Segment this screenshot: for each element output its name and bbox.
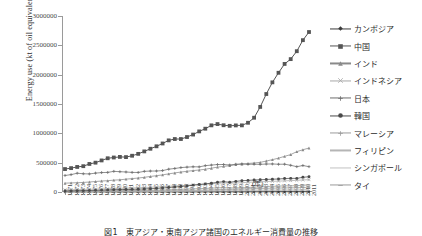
x-axis-unit: (年) <box>252 178 263 188</box>
legend-label: インドネシア <box>354 75 402 86</box>
data-point <box>106 156 110 160</box>
data-point <box>136 152 140 156</box>
legend-marker-icon <box>330 145 351 155</box>
data-point <box>289 57 293 61</box>
data-point <box>179 137 183 141</box>
data-point <box>143 170 146 173</box>
data-point <box>289 177 292 180</box>
data-point <box>204 182 207 185</box>
data-point <box>131 188 134 191</box>
data-point <box>216 122 220 126</box>
legend-label: 日本 <box>354 93 370 104</box>
legend-item-カンボジア[interactable]: カンボジア <box>330 20 422 37</box>
data-point <box>70 189 73 192</box>
data-point <box>247 179 250 182</box>
data-point <box>167 186 170 189</box>
data-point <box>69 166 73 170</box>
data-point <box>192 184 195 187</box>
data-point <box>277 163 280 166</box>
legend-item-韓国[interactable]: 韓国 <box>330 107 422 124</box>
data-point <box>161 142 165 146</box>
legend-label: フィリピン <box>354 145 394 156</box>
data-point <box>308 186 311 189</box>
data-point <box>265 187 268 190</box>
data-point <box>112 170 115 173</box>
data-point <box>264 92 268 96</box>
y-tick-label: 2000000 <box>33 71 58 78</box>
legend-label: マレーシア <box>354 128 394 139</box>
data-point <box>186 166 189 169</box>
data-point <box>82 189 85 192</box>
data-point <box>265 163 268 166</box>
legend-label: 中国 <box>354 41 370 52</box>
data-point <box>301 186 304 189</box>
data-point <box>240 179 243 182</box>
data-point <box>234 180 237 183</box>
data-point <box>143 187 146 190</box>
data-point <box>234 124 238 128</box>
data-point <box>155 144 159 148</box>
legend-item-インド[interactable]: インド <box>330 55 422 72</box>
data-point <box>130 154 134 158</box>
data-point <box>64 190 67 193</box>
y-tick <box>58 192 62 193</box>
data-point <box>210 164 213 167</box>
data-point <box>295 186 298 189</box>
data-point <box>142 150 146 154</box>
legend-marker-icon <box>330 163 351 173</box>
legend-item-フィリピン[interactable]: フィリピン <box>330 142 422 159</box>
data-point <box>179 166 182 169</box>
legend-item-インドネシア[interactable]: インドネシア <box>330 72 422 89</box>
data-point <box>186 184 189 187</box>
data-point <box>173 186 176 189</box>
data-point <box>149 147 153 151</box>
data-point <box>246 121 250 125</box>
legend-item-タイ[interactable]: タイ <box>330 177 422 194</box>
data-point <box>94 172 97 175</box>
data-point <box>240 123 244 127</box>
data-point <box>289 164 292 167</box>
data-point <box>94 161 98 165</box>
data-point <box>173 167 176 170</box>
data-point <box>308 175 311 178</box>
data-point <box>106 171 109 174</box>
data-point <box>283 177 286 180</box>
data-point <box>88 172 91 175</box>
data-point <box>210 123 214 127</box>
data-point <box>185 135 189 139</box>
data-point <box>258 105 262 109</box>
y-tick-label: 3000000 <box>33 13 58 20</box>
data-point <box>112 156 116 160</box>
chart-legend: カンボジア中国インドインドネシア日本韓国マレーシアフィリピンシンガポールタイ <box>330 20 422 194</box>
legend-item-中国[interactable]: 中国 <box>330 37 422 54</box>
data-point <box>88 162 92 166</box>
data-point <box>161 169 164 172</box>
legend-marker-icon <box>330 58 351 68</box>
plot-inner: 0500000100000015000002000000250000030000… <box>62 16 312 192</box>
legend-marker-icon <box>330 111 351 121</box>
legend-marker-icon <box>330 180 351 190</box>
data-point <box>216 163 219 166</box>
data-point <box>301 176 304 179</box>
y-tick-label: 2500000 <box>33 42 58 49</box>
data-point <box>289 186 292 189</box>
data-point <box>76 189 79 192</box>
data-point <box>161 187 164 190</box>
data-point <box>167 138 171 142</box>
data-point <box>271 163 274 166</box>
legend-item-マレーシア[interactable]: マレーシア <box>330 124 422 141</box>
data-point <box>283 62 287 66</box>
legend-label: 韓国 <box>354 110 370 121</box>
data-point <box>295 165 298 168</box>
data-point <box>100 159 104 163</box>
legend-item-日本[interactable]: 日本 <box>330 90 422 107</box>
data-point <box>338 26 343 31</box>
data-point <box>75 165 79 169</box>
legend-item-シンガポール[interactable]: シンガポール <box>330 159 422 176</box>
data-point <box>198 165 201 168</box>
data-point <box>283 186 286 189</box>
data-point <box>125 188 128 191</box>
data-point <box>106 188 109 191</box>
data-point <box>295 177 298 180</box>
data-point <box>228 124 232 128</box>
